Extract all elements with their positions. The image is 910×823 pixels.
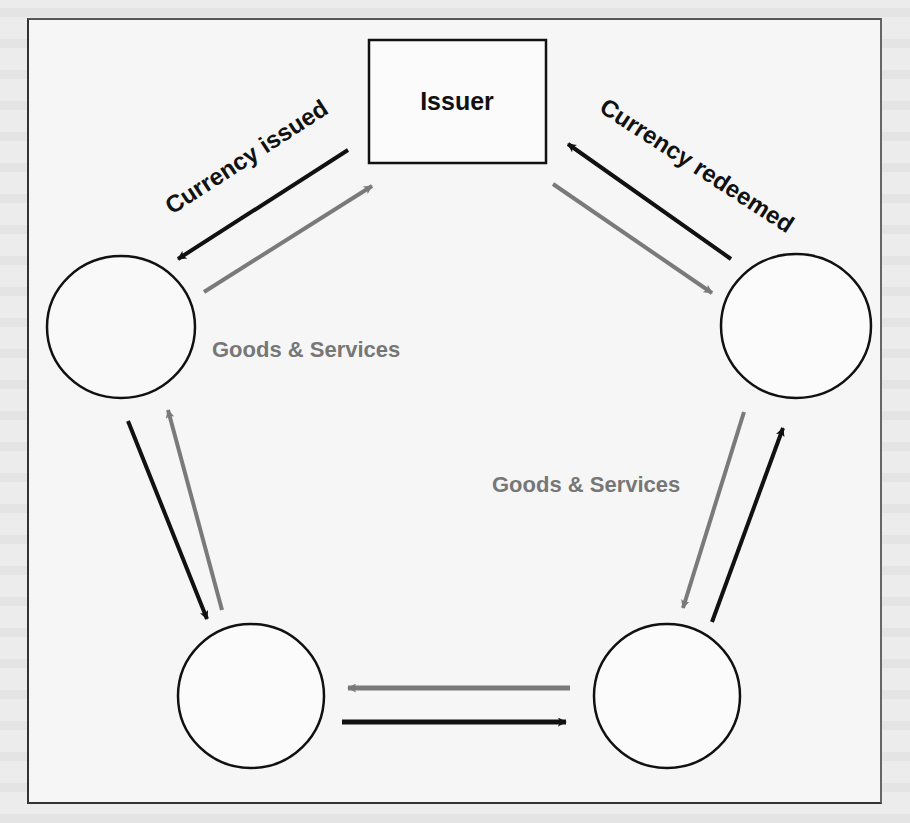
issuer-node: Issuer bbox=[369, 40, 546, 163]
arrow-top-right-to-bottom-right bbox=[683, 412, 744, 608]
arrow-bottom-left-to-top-left bbox=[168, 410, 222, 610]
goods-services-left-label: Goods & Services bbox=[212, 337, 400, 362]
participant-top-right-node bbox=[721, 254, 871, 398]
arrow-currency-issued bbox=[178, 150, 348, 259]
currency-flow-diagram: Issuer Currency issued Currency redeemed… bbox=[0, 0, 910, 823]
currency-issued-label: Currency issued bbox=[160, 94, 332, 219]
arrow-goods-to-issuer bbox=[204, 186, 372, 292]
issuer-label: Issuer bbox=[420, 87, 494, 115]
participant-bottom-right-node bbox=[594, 624, 740, 768]
participant-bottom-left-node bbox=[178, 624, 324, 768]
arrow-bottom-right-to-top-right bbox=[712, 428, 783, 622]
goods-services-right-label: Goods & Services bbox=[492, 472, 680, 497]
arrow-top-left-to-bottom-left bbox=[128, 421, 207, 619]
currency-redeemed-label: Currency redeemed bbox=[595, 93, 799, 238]
arrow-issuer-to-top-right bbox=[553, 184, 712, 293]
participant-top-left-node bbox=[47, 256, 195, 398]
